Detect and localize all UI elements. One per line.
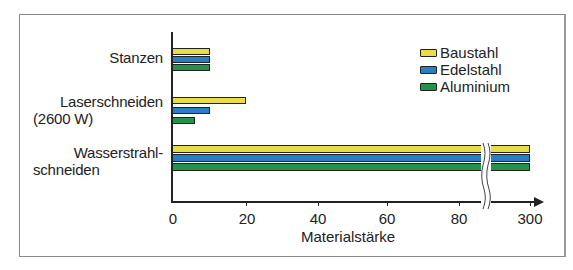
category-label-laser-power: (2600 W) bbox=[33, 110, 93, 127]
bar-laser-edelstahl bbox=[172, 107, 210, 114]
category-label-stanzen: Stanzen bbox=[109, 49, 163, 66]
bar-stanzen-edelstahl bbox=[172, 56, 210, 63]
legend-item-baustahl: Baustahl bbox=[420, 44, 510, 61]
bar-stanzen-baustahl bbox=[172, 48, 210, 55]
legend-label: Baustahl bbox=[440, 44, 498, 61]
legend-swatch-icon bbox=[420, 83, 437, 91]
bar-laser-baustahl bbox=[172, 97, 246, 104]
bar-stanzen-aluminium bbox=[172, 64, 210, 71]
legend-swatch-icon bbox=[420, 49, 437, 57]
x-tick-label: 60 bbox=[379, 210, 396, 227]
legend-item-aluminium: Aluminium bbox=[420, 78, 510, 95]
x-tick bbox=[318, 201, 319, 206]
x-tick bbox=[387, 201, 388, 206]
x-tick-label: 20 bbox=[239, 210, 256, 227]
x-tick bbox=[459, 201, 460, 206]
legend-item-edelstahl: Edelstahl bbox=[420, 61, 510, 78]
x-axis-arrow-icon bbox=[534, 197, 544, 207]
category-label-laser-line1: Laserschneiden bbox=[60, 93, 163, 110]
x-tick-label: 40 bbox=[310, 210, 327, 227]
bar-water-baustahl bbox=[172, 145, 530, 153]
bar-water-edelstahl bbox=[172, 154, 530, 162]
category-label-water-line2: schneiden bbox=[33, 161, 100, 178]
x-tick bbox=[530, 201, 531, 206]
x-tick-label: 80 bbox=[451, 210, 468, 227]
legend-label: Edelstahl bbox=[440, 61, 502, 78]
bar-laser-aluminium bbox=[172, 117, 195, 124]
x-tick bbox=[246, 201, 247, 206]
category-label-laser: Laserschneiden bbox=[60, 93, 163, 110]
x-axis-label: Materialstärke bbox=[301, 228, 395, 245]
bar-water-aluminium bbox=[172, 163, 530, 171]
legend-label: Aluminium bbox=[440, 78, 510, 95]
legend: Baustahl Edelstahl Aluminium bbox=[420, 44, 510, 95]
x-tick-label: 0 bbox=[169, 210, 177, 227]
category-label-water-line1: Wasserstrahl- bbox=[74, 144, 163, 161]
axis-break-icon bbox=[481, 143, 491, 209]
x-tick-label: 300 bbox=[517, 210, 542, 227]
legend-swatch-icon bbox=[420, 66, 437, 74]
